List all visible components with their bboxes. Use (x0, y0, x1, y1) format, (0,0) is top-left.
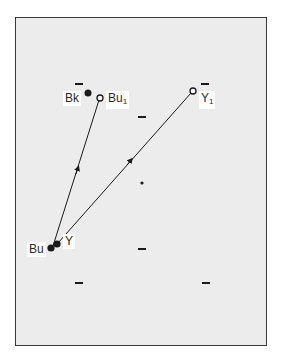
point-bk (85, 90, 92, 97)
center-dot (140, 181, 143, 184)
label-y1: Y1 (199, 91, 215, 109)
point-y (53, 240, 60, 247)
label-bu: Bu (27, 242, 46, 257)
point-bu1 (97, 95, 103, 101)
label-bk: Bk (63, 91, 81, 106)
point-y1 (190, 88, 196, 94)
label-y: Y (63, 234, 75, 249)
point-bu (47, 244, 54, 251)
label-bu1: Bu1 (106, 91, 129, 109)
diagram-canvas (0, 0, 287, 361)
vector-bu-to-bu1 (53, 100, 99, 246)
